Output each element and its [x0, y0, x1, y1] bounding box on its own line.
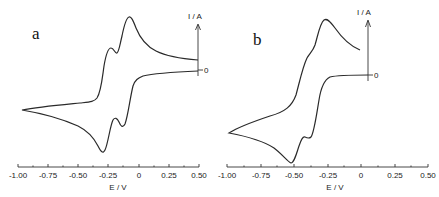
tick-label-b-4: 0 — [359, 171, 364, 180]
tick-label-b-6: 0.50 — [420, 171, 436, 180]
tick-label-a-3: -0.25 — [99, 171, 118, 180]
tick-label-a-4: 0 — [137, 171, 142, 180]
tick-label-a-2: -0.50 — [69, 171, 88, 180]
tick-label-a-5: 0.25 — [161, 171, 177, 180]
panel-b-label: b — [253, 30, 262, 49]
cv-curve-b — [229, 19, 368, 163]
tick-label-a-6: 0.50 — [191, 171, 207, 180]
tick-label-a-1: -0.75 — [39, 171, 58, 180]
tick-label-b-1: -0.75 — [252, 171, 271, 180]
panel-a-label: a — [32, 24, 40, 43]
tick-label-b-2: -0.50 — [285, 171, 304, 180]
zero-label-a: 0 — [204, 66, 209, 75]
tick-label-b-5: 0.25 — [387, 171, 403, 180]
tick-label-b-3: -0.25 — [319, 171, 338, 180]
potential-axis-label-b: E / V — [326, 183, 344, 192]
potential-axis-label-a: E / V — [109, 183, 127, 192]
figure: a I / A 0 -1.00 -0.75 -0.50 -0.25 0 — [0, 0, 439, 197]
tick-label-b-0: -1.00 — [218, 171, 237, 180]
panel-b: b I / A 0 -1.00 -0.75 -0.50 -0.25 0 0.25 — [218, 8, 436, 192]
panel-a: a I / A 0 -1.00 -0.75 -0.50 -0.25 0 — [9, 12, 209, 192]
current-axis-label-a: I / A — [188, 12, 202, 21]
zero-label-b: 0 — [374, 71, 379, 80]
current-axis-label-b: I / A — [357, 8, 371, 17]
tick-label-a-0: -1.00 — [9, 171, 28, 180]
cv-curve-a — [22, 17, 198, 152]
